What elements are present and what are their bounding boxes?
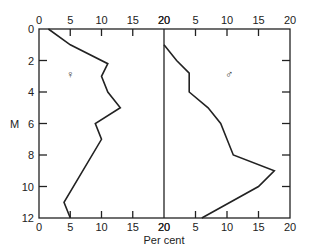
svg-text:20: 20 (158, 14, 170, 26)
svg-text:10: 10 (95, 221, 107, 233)
svg-text:0: 0 (36, 221, 42, 233)
axis-ticks: 0246810120055101015152020202055101015152… (22, 14, 296, 233)
male-symbol-icon: ♂ (225, 68, 233, 80)
svg-text:10: 10 (95, 14, 107, 26)
svg-text:6: 6 (28, 118, 34, 130)
x-axis-label: Per cent (144, 234, 185, 246)
male-line (164, 45, 274, 218)
svg-text:8: 8 (28, 149, 34, 161)
svg-text:5: 5 (192, 221, 198, 233)
chart: 0246810120055101015152020202055101015152… (0, 0, 309, 250)
svg-text:15: 15 (252, 14, 264, 26)
svg-text:10: 10 (221, 14, 233, 26)
svg-text:20: 20 (158, 221, 170, 233)
svg-text:5: 5 (67, 221, 73, 233)
svg-text:0: 0 (36, 14, 42, 26)
data-lines (48, 29, 274, 218)
female-symbol-icon: ♀ (66, 68, 74, 80)
svg-text:20: 20 (284, 14, 296, 26)
svg-text:20: 20 (284, 221, 296, 233)
female-line (48, 29, 120, 218)
svg-text:5: 5 (67, 14, 73, 26)
svg-text:10: 10 (221, 221, 233, 233)
svg-text:2: 2 (28, 55, 34, 67)
svg-text:0: 0 (28, 23, 34, 35)
svg-text:12: 12 (22, 212, 34, 224)
y-axis-label: M (10, 118, 19, 130)
svg-text:15: 15 (127, 221, 139, 233)
svg-text:15: 15 (127, 14, 139, 26)
svg-text:15: 15 (252, 221, 264, 233)
svg-text:4: 4 (28, 86, 34, 98)
svg-text:5: 5 (192, 14, 198, 26)
svg-text:10: 10 (22, 181, 34, 193)
